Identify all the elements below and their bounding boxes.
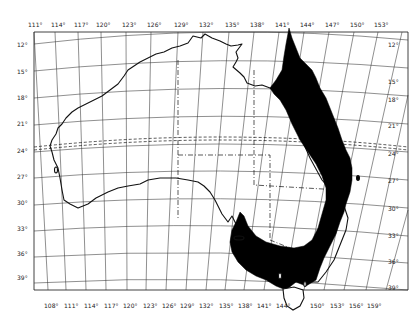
svg-text:138°: 138° — [250, 21, 264, 28]
shaded-eastern-region — [230, 28, 352, 290]
svg-text:147°: 147° — [325, 21, 339, 28]
svg-text:138°: 138° — [238, 302, 252, 309]
svg-text:135°: 135° — [225, 21, 239, 28]
svg-text:144°: 144° — [276, 302, 290, 309]
svg-text:126°: 126° — [147, 21, 161, 28]
svg-text:144°: 144° — [300, 21, 314, 28]
svg-text:36°: 36° — [17, 250, 28, 257]
svg-text:120°: 120° — [123, 302, 137, 309]
right-latitude-labels: 12°15°18° 21°24°27° 30°33°36° 39° — [388, 41, 399, 291]
svg-text:30°: 30° — [388, 205, 399, 212]
svg-text:108°: 108° — [44, 302, 58, 309]
svg-text:150°: 150° — [350, 21, 364, 28]
top-longitude-labels: 111°114°117° 120°123°126° 129°132°135° 1… — [28, 21, 388, 28]
svg-text:117°: 117° — [104, 302, 118, 309]
svg-text:15°: 15° — [388, 78, 399, 85]
map-frame — [34, 32, 408, 290]
svg-text:150°: 150° — [310, 302, 324, 309]
svg-text:117°: 117° — [74, 21, 88, 28]
svg-text:15°: 15° — [17, 68, 28, 75]
longitude-gridlines — [34, 32, 408, 290]
svg-text:120°: 120° — [96, 21, 110, 28]
svg-text:18°: 18° — [388, 96, 399, 103]
svg-text:27°: 27° — [17, 173, 28, 180]
left-latitude-labels: 12°15°18° 21°24°27° 30°33°36° 39° — [17, 41, 28, 281]
svg-text:39°: 39° — [17, 274, 28, 281]
svg-text:24°: 24° — [388, 150, 399, 157]
svg-text:36°: 36° — [388, 258, 399, 265]
svg-text:21°: 21° — [388, 122, 399, 129]
svg-text:132°: 132° — [199, 21, 213, 28]
svg-text:12°: 12° — [388, 41, 399, 48]
svg-text:18°: 18° — [17, 94, 28, 101]
svg-text:159°: 159° — [367, 302, 381, 309]
svg-text:123°: 123° — [122, 21, 136, 28]
svg-text:114°: 114° — [51, 21, 65, 28]
svg-text:30°: 30° — [17, 199, 28, 206]
svg-text:27°: 27° — [388, 177, 399, 184]
svg-text:33°: 33° — [388, 232, 399, 239]
svg-text:141°: 141° — [275, 21, 289, 28]
svg-text:153°: 153° — [330, 302, 344, 309]
svg-text:21°: 21° — [17, 120, 28, 127]
latitude-gridlines — [34, 32, 408, 290]
svg-text:153°: 153° — [374, 21, 388, 28]
svg-text:12°: 12° — [17, 41, 28, 48]
svg-text:33°: 33° — [17, 225, 28, 232]
svg-text:111°: 111° — [28, 21, 42, 28]
svg-text:135°: 135° — [219, 302, 233, 309]
map-canvas: 111°114°117° 120°123°126° 129°132°135° 1… — [0, 0, 416, 327]
svg-text:141°: 141° — [257, 302, 271, 309]
svg-text:24°: 24° — [17, 147, 28, 154]
svg-text:132°: 132° — [199, 302, 213, 309]
svg-text:123°: 123° — [143, 302, 157, 309]
svg-text:156°: 156° — [349, 302, 363, 309]
svg-text:114°: 114° — [84, 302, 98, 309]
kangaroo-island — [234, 236, 244, 240]
svg-text:129°: 129° — [174, 21, 188, 28]
svg-text:39°: 39° — [388, 284, 399, 291]
svg-text:126°: 126° — [162, 302, 176, 309]
svg-text:129°: 129° — [180, 302, 194, 309]
svg-text:111°: 111° — [64, 302, 78, 309]
bottom-longitude-labels: 108°111°114° 117°120°123° 126°129°132° 1… — [44, 302, 381, 309]
